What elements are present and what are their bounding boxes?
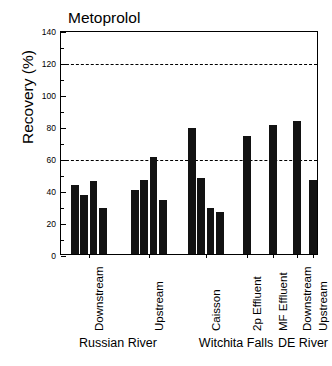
y-tick-label: 20 (47, 219, 56, 229)
bar (269, 125, 277, 254)
y-tick-mark (61, 224, 66, 225)
bar (243, 136, 251, 254)
x-category-label: 2p Effluent (251, 276, 263, 331)
y-tick-minor (61, 240, 64, 241)
y-tick-label: 60 (47, 155, 56, 165)
bar (159, 200, 167, 254)
bar (309, 180, 317, 254)
x-category-label: Downstream (93, 266, 105, 331)
x-group-label: DE River (278, 336, 328, 350)
bar (140, 180, 148, 254)
bar (216, 212, 224, 254)
bar (80, 195, 88, 254)
bar (90, 181, 98, 254)
y-tick-label: 0 (51, 251, 56, 261)
y-tick-label: 100 (42, 91, 56, 101)
bar (131, 190, 139, 254)
x-group-label: Witchita Falls (199, 336, 273, 350)
x-tick-mark (297, 254, 298, 258)
y-tick-label: 80 (47, 123, 56, 133)
y-tick-minor (61, 80, 64, 81)
grid-line (61, 64, 317, 65)
x-tick-mark (89, 254, 90, 258)
y-tick-minor (61, 48, 64, 49)
bar (150, 157, 158, 254)
y-tick-mark (61, 128, 66, 129)
x-category-label: MF Effluent (277, 272, 289, 331)
y-tick-mark (61, 32, 66, 33)
bar (197, 178, 205, 254)
x-category-label: Downstream (301, 266, 313, 331)
y-tick-label: 120 (42, 59, 56, 69)
x-tick-mark (313, 254, 314, 258)
y-tick-label: 40 (47, 187, 56, 197)
y-tick-minor (61, 144, 64, 145)
bar (71, 185, 79, 254)
y-tick-mark (61, 192, 66, 193)
y-tick-minor (61, 208, 64, 209)
y-tick-minor (61, 176, 64, 177)
y-tick-mark (61, 256, 66, 257)
x-tick-mark (206, 254, 207, 258)
x-tick-mark (149, 254, 150, 258)
bar (99, 208, 107, 254)
x-group-label: Russian River (79, 336, 157, 350)
x-category-label: Upstream (317, 281, 329, 331)
y-axis-title: Recovery (%) (19, 17, 37, 177)
bar (207, 208, 215, 254)
plot-area: 020406080100120140 (60, 31, 318, 255)
x-category-label: Upstream (153, 281, 165, 331)
x-tick-mark (273, 254, 274, 258)
chart-figure: Recovery (%) Metoprolol 0204060801001201… (0, 0, 332, 366)
bar (188, 128, 196, 254)
chart-title: Metoprolol (65, 9, 143, 27)
x-tick-mark (247, 254, 248, 258)
x-category-label: Caisson (210, 289, 222, 331)
y-tick-label: 140 (42, 27, 56, 37)
bar (293, 121, 301, 254)
y-tick-minor (61, 112, 64, 113)
y-tick-mark (61, 96, 66, 97)
